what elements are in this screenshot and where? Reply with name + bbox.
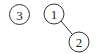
- graph-diagram: 3 1 2: [0, 0, 98, 54]
- node-1-label: 1: [51, 7, 58, 22]
- node-3-label: 3: [16, 8, 23, 23]
- node-2: 2: [69, 32, 89, 52]
- node-2-label: 2: [76, 35, 83, 50]
- node-3: 3: [10, 5, 30, 25]
- node-1: 1: [44, 4, 64, 24]
- edge-1-2: [61, 21, 72, 34]
